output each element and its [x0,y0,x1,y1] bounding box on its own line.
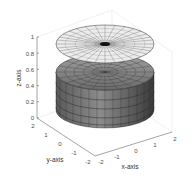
x-axis: -2 -1 0 1 2 x-axis [95,132,177,170]
x-tick-1: 1 [153,142,157,148]
x-tick--2: -2 [98,159,104,165]
y-tick-2: 2 [31,123,35,129]
y-tick--2: -2 [85,159,91,165]
x-tick-0: 0 [134,148,138,154]
y-tick--1: -1 [71,150,77,156]
z-axis: 0 0.2 0.4 0.6 0.8 1 z-axis [15,34,39,121]
y-axis-label: y-axis [47,156,65,164]
y-tick-0: 0 [58,141,62,147]
stacked-cylinder-surface [56,54,154,128]
z-tick-0.2: 0.2 [26,99,35,105]
x-tick-2: 2 [173,136,177,142]
top-disk-surface [56,25,154,63]
z-tick-0.4: 0.4 [26,83,35,89]
z-axis-label: z-axis [15,69,22,87]
z-tick-0.6: 0.6 [26,67,35,73]
z-tick-0.8: 0.8 [26,51,35,57]
y-tick-1: 1 [44,132,48,138]
x-tick--1: -1 [114,154,120,160]
z-tick-1: 1 [31,34,35,40]
z-tick-0: 0 [31,115,35,121]
x-axis-label: x-axis [122,163,140,170]
surface-plot-3d: 0 0.2 0.4 0.6 0.8 1 z-axis 2 1 0 -1 -2 y… [0,0,192,182]
